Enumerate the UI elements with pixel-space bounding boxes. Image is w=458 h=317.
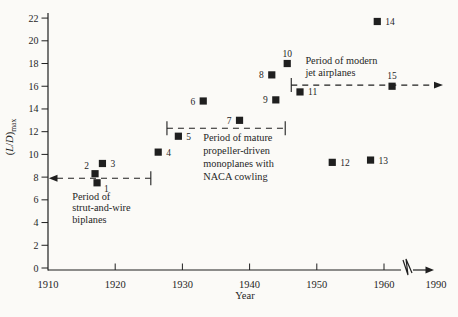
period-label-propeller-line3: monoplanes with xyxy=(203,158,274,169)
x-axis-break xyxy=(403,259,412,275)
x-axis-title: Year xyxy=(215,290,275,301)
data-point-label-7: 7 xyxy=(227,116,232,126)
data-point-7 xyxy=(236,117,243,124)
period-left-arrow-icon-biplanes xyxy=(49,175,58,182)
data-point-label-3: 3 xyxy=(110,159,115,169)
data-point-label-13: 13 xyxy=(379,156,389,166)
data-point-2 xyxy=(91,170,98,177)
x-tick-label-1940: 1940 xyxy=(239,279,260,290)
data-point-label-11: 11 xyxy=(308,87,317,97)
y-tick-label-22: 22 xyxy=(29,13,39,24)
data-point-10 xyxy=(284,60,291,67)
y-tick-label-16: 16 xyxy=(29,81,39,92)
y-axis-title-text: (L/D)max xyxy=(4,119,18,156)
data-point-label-2: 2 xyxy=(84,161,89,171)
data-point-15 xyxy=(388,83,395,90)
data-point-5 xyxy=(175,133,182,140)
data-point-label-4: 4 xyxy=(166,148,171,158)
y-axis-title: (L/D)max xyxy=(4,119,18,156)
data-point-12 xyxy=(329,159,336,166)
y-tick-label-20: 20 xyxy=(29,35,39,46)
y-tick-label-14: 14 xyxy=(29,103,39,114)
data-point-label-6: 6 xyxy=(190,97,195,107)
y-tick-label-8: 8 xyxy=(34,172,39,183)
data-point-1 xyxy=(93,179,100,186)
data-point-9 xyxy=(272,96,279,103)
data-point-label-15: 15 xyxy=(387,71,397,81)
data-point-14 xyxy=(374,18,381,25)
x-tick-label-1960: 1960 xyxy=(374,279,395,290)
y-tick-label-4: 4 xyxy=(34,217,39,228)
data-point-11 xyxy=(296,88,303,95)
data-point-6 xyxy=(200,97,207,104)
x-tick-label-1910: 1910 xyxy=(38,279,59,290)
period-label-biplanes-line3: biplanes xyxy=(72,214,106,225)
period-label-propeller-line4: NACA cowling xyxy=(203,171,267,182)
x-tick-label-1950: 1950 xyxy=(306,279,327,290)
y-tick-label-0: 0 xyxy=(34,263,39,274)
data-point-label-5: 5 xyxy=(186,132,191,142)
period-label-biplanes-line2: strut-and-wire xyxy=(72,202,131,213)
period-label-jets-line1: Period of modern xyxy=(305,55,377,66)
data-point-4 xyxy=(155,149,162,156)
data-point-label-8: 8 xyxy=(259,70,264,80)
data-point-13 xyxy=(367,156,374,163)
data-point-label-10: 10 xyxy=(282,49,292,59)
data-point-8 xyxy=(268,71,275,78)
ld-evolution-figure: 0246810121416182022191019201930194019501… xyxy=(0,0,458,317)
period-label-propeller-line1: Period of mature xyxy=(203,132,273,143)
plot-svg: 0246810121416182022191019201930194019501… xyxy=(0,0,458,317)
data-point-label-12: 12 xyxy=(340,158,350,168)
y-tick-label-2: 2 xyxy=(34,240,39,251)
x-tick-label-1930: 1930 xyxy=(172,279,193,290)
y-tick-label-6: 6 xyxy=(34,194,39,205)
period-right-arrow-icon-jets xyxy=(434,82,443,89)
data-point-label-9: 9 xyxy=(263,95,268,105)
period-label-jets-line2: jet airplanes xyxy=(304,67,355,78)
x-axis-arrow-icon xyxy=(426,267,435,274)
data-point-label-1: 1 xyxy=(104,184,109,194)
x-tick-label-1920: 1920 xyxy=(105,279,126,290)
data-point-label-14: 14 xyxy=(385,17,395,27)
y-tick-label-10: 10 xyxy=(29,149,39,160)
period-label-propeller-line2: propeller-driven xyxy=(203,145,270,156)
y-tick-label-18: 18 xyxy=(29,58,39,69)
x-tick-label-1990: 1990 xyxy=(426,279,447,290)
y-tick-label-12: 12 xyxy=(29,126,39,137)
data-point-3 xyxy=(99,160,106,167)
